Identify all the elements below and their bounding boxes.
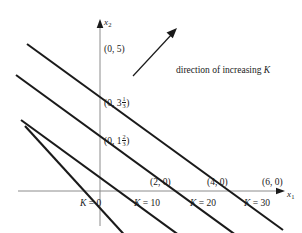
k-label-30: K = 30 [244,199,270,209]
point-label-0-1-prefix: (0, 1 [104,136,121,146]
point-label-0-1-and-2-3: (0, 123) [104,134,129,148]
k-value: 30 [260,198,270,208]
fraction-denominator: 3 [122,140,126,147]
k-equals: = [140,198,150,208]
increasing-k-caption: direction of increasing K [176,66,270,76]
k-value: 0 [96,198,101,208]
increasing-k-caption-text: direction of increasing [176,65,264,75]
fraction-denominator: 3 [122,102,126,109]
x-axis-label: x1 [287,190,294,199]
k-value: 10 [150,198,160,208]
point-label-0-5: (0, 5) [104,45,125,55]
point-label-4-0: (4, 0) [207,178,228,188]
isoprofit-lines-figure: x2 x1 (0, 5) (0, 313) (0, 123) (2, 0) (4… [0,0,302,233]
k-label-10: K = 10 [134,199,160,209]
point-label-2-0: (2, 0) [150,178,171,188]
increasing-k-arrow [133,28,177,76]
k-equals: = [196,198,206,208]
point-label-0-3-prefix: (0, 3 [104,98,121,108]
k-value: 20 [206,198,216,208]
axes-group [18,19,285,226]
k-label-0: K = 0 [80,199,101,209]
y-axis-label: x2 [104,18,111,27]
k-equals: = [86,198,96,208]
y-axis-label-subscript: 2 [108,21,111,28]
increasing-k-arrowhead [167,28,178,38]
k-equals: = [250,198,260,208]
fraction-two-thirds: 23 [122,134,126,148]
increasing-k-caption-symbol: K [264,65,270,75]
y-axis-arrowhead [97,19,104,28]
x-axis-label-subscript: 1 [291,193,294,200]
increasing-k-arrow-shaft [133,34,172,76]
k-label-20: K = 20 [190,199,216,209]
point-label-6-0: (6, 0) [262,178,283,188]
point-label-0-3-and-1-3: (0, 313) [104,96,129,110]
x-axis-arrowhead [276,188,285,195]
fraction-one-third: 13 [122,96,126,110]
